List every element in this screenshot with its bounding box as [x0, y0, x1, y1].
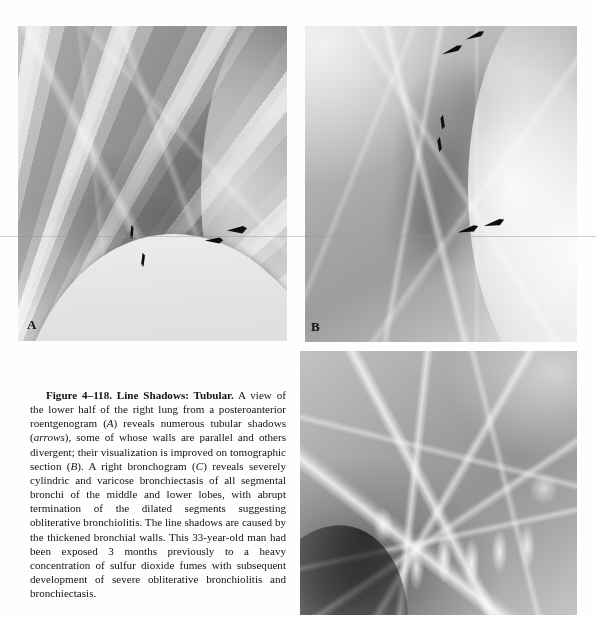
panel-label-b: B	[311, 320, 320, 333]
scanline-artifact	[0, 236, 596, 237]
radiograph-panel-a: A	[18, 26, 287, 341]
figure-title-text: Line Shadows: Tubular.	[117, 389, 234, 401]
figure-number: Figure 4–118.	[46, 389, 112, 401]
figure-caption: Figure 4–118. Line Shadows: Tubular. A v…	[30, 388, 286, 600]
panel-label-a: A	[27, 318, 36, 331]
panel-b-film-grain	[305, 26, 577, 342]
caption-text-4: ). A right bronchogram (	[77, 460, 196, 472]
panel-c-film-grain	[300, 351, 577, 615]
figure-page: A	[0, 0, 596, 618]
radiograph-panel-b: B	[305, 26, 577, 342]
caption-ref-arrows: arrows	[34, 431, 65, 443]
panel-a-film-grain	[18, 26, 287, 341]
caption-text-5: ) reveals severely cylindric and varicos…	[30, 460, 286, 599]
radiograph-panel-c	[300, 351, 577, 615]
caption-ref-a: A	[107, 417, 114, 429]
